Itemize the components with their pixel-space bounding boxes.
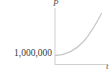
- y-axis-label: P: [53, 0, 59, 8]
- x-axis-label: t: [106, 62, 109, 71]
- exponential-growth-figure: P t 1,000,000: [0, 0, 110, 73]
- y-axis-tick-label-initial-value: 1,000,000: [4, 49, 52, 59]
- plot-area: [0, 0, 110, 73]
- exponential-curve: [56, 14, 102, 56]
